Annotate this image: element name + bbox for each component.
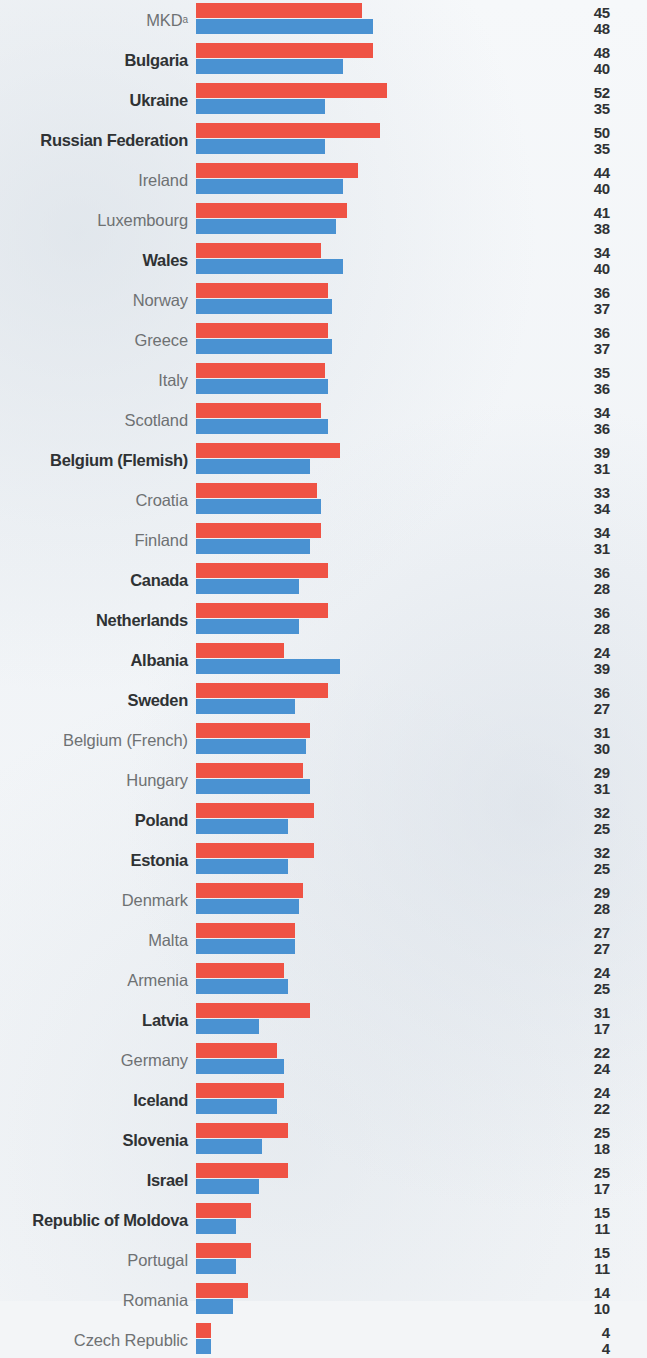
value-labels: 3431 xyxy=(560,520,610,560)
value-series-2: 25 xyxy=(594,821,610,836)
bar-series-2 xyxy=(196,219,336,234)
category-label: Belgium (French) xyxy=(0,720,188,760)
category-label: Belgium (Flemish) xyxy=(0,440,188,480)
bar-series-2 xyxy=(196,179,343,194)
value-series-2: 31 xyxy=(594,541,610,556)
bar-series-2 xyxy=(196,739,306,754)
chart-row: Luxembourg4138 xyxy=(0,200,647,240)
chart-row: Germany2224 xyxy=(0,1040,647,1080)
value-labels: 3225 xyxy=(560,840,610,880)
value-series-2: 27 xyxy=(594,941,610,956)
category-label: Latvia xyxy=(0,1000,188,1040)
chart-row: Croatia3334 xyxy=(0,480,647,520)
bar-series-1 xyxy=(196,1203,251,1218)
category-label: Finland xyxy=(0,520,188,560)
value-series-1: 15 xyxy=(594,1245,610,1260)
value-series-2: 31 xyxy=(594,461,610,476)
value-series-2: 34 xyxy=(594,501,610,516)
value-series-1: 34 xyxy=(594,405,610,420)
bar-series-1 xyxy=(196,43,373,58)
value-series-1: 32 xyxy=(594,805,610,820)
bar-series-2 xyxy=(196,1219,236,1234)
bar-series-1 xyxy=(196,683,328,698)
value-labels: 1511 xyxy=(560,1240,610,1280)
value-series-2: 35 xyxy=(594,141,610,156)
bar-series-2 xyxy=(196,1099,277,1114)
bar-series-1 xyxy=(196,83,387,98)
value-labels: 2931 xyxy=(560,760,610,800)
bar-series-1 xyxy=(196,643,284,658)
bar-series-2 xyxy=(196,139,325,154)
chart-row: Armenia2425 xyxy=(0,960,647,1000)
value-series-2: 31 xyxy=(594,781,610,796)
value-labels: 2517 xyxy=(560,1160,610,1200)
bar-series-1 xyxy=(196,843,314,858)
bar-series-2 xyxy=(196,979,288,994)
value-series-2: 25 xyxy=(594,861,610,876)
value-series-1: 34 xyxy=(594,245,610,260)
category-label: MKDa xyxy=(0,0,188,40)
bar-series-2 xyxy=(196,779,310,794)
bar-series-1 xyxy=(196,763,303,778)
chart-row: Belgium (French)3130 xyxy=(0,720,647,760)
category-label: Albania xyxy=(0,640,188,680)
value-series-1: 25 xyxy=(594,1125,610,1140)
value-series-1: 27 xyxy=(594,925,610,940)
value-series-1: 41 xyxy=(594,205,610,220)
bar-series-2 xyxy=(196,339,332,354)
value-labels: 3637 xyxy=(560,280,610,320)
category-label: Estonia xyxy=(0,840,188,880)
value-series-2: 25 xyxy=(594,981,610,996)
chart-row: Ukraine5235 xyxy=(0,80,647,120)
value-labels: 3440 xyxy=(560,240,610,280)
value-labels: 1410 xyxy=(560,1280,610,1320)
bar-series-1 xyxy=(196,1083,284,1098)
value-series-1: 24 xyxy=(594,965,610,980)
value-series-2: 11 xyxy=(595,1221,610,1236)
bar-series-2 xyxy=(196,1179,259,1194)
value-series-2: 35 xyxy=(594,101,610,116)
bar-series-1 xyxy=(196,883,303,898)
value-series-2: 28 xyxy=(594,901,610,916)
bar-series-2 xyxy=(196,379,328,394)
value-labels: 5235 xyxy=(560,80,610,120)
bar-series-2 xyxy=(196,1059,284,1074)
category-label: Scotland xyxy=(0,400,188,440)
category-label: Malta xyxy=(0,920,188,960)
chart-row: Malta2727 xyxy=(0,920,647,960)
bar-series-1 xyxy=(196,603,328,618)
category-label: Italy xyxy=(0,360,188,400)
chart-row: Wales3440 xyxy=(0,240,647,280)
value-series-2: 28 xyxy=(594,581,610,596)
category-label: Greece xyxy=(0,320,188,360)
value-series-1: 29 xyxy=(594,885,610,900)
value-series-1: 52 xyxy=(594,85,610,100)
chart-row: MKDa4548 xyxy=(0,0,647,40)
chart-row: Czech Republic44 xyxy=(0,1320,647,1358)
chart-row: Netherlands3628 xyxy=(0,600,647,640)
value-series-1: 15 xyxy=(594,1205,610,1220)
category-label: Czech Republic xyxy=(0,1320,188,1358)
value-labels: 4440 xyxy=(560,160,610,200)
category-label: Republic of Moldova xyxy=(0,1200,188,1240)
bar-series-1 xyxy=(196,923,295,938)
value-series-2: 38 xyxy=(594,221,610,236)
value-labels: 5035 xyxy=(560,120,610,160)
value-series-2: 40 xyxy=(594,261,610,276)
category-label: Iceland xyxy=(0,1080,188,1120)
bar-series-1 xyxy=(196,1283,248,1298)
chart-row: Russian Federation5035 xyxy=(0,120,647,160)
value-series-1: 4 xyxy=(602,1325,610,1340)
value-labels: 2518 xyxy=(560,1120,610,1160)
bar-series-1 xyxy=(196,3,362,18)
value-series-2: 10 xyxy=(594,1301,610,1316)
chart-row: Albania2439 xyxy=(0,640,647,680)
category-label: Ukraine xyxy=(0,80,188,120)
value-labels: 2422 xyxy=(560,1080,610,1120)
category-label: Netherlands xyxy=(0,600,188,640)
bar-series-2 xyxy=(196,59,343,74)
chart-row: Latvia3117 xyxy=(0,1000,647,1040)
bar-series-2 xyxy=(196,1139,262,1154)
chart-row: Bulgaria4840 xyxy=(0,40,647,80)
chart-row: Iceland2422 xyxy=(0,1080,647,1120)
